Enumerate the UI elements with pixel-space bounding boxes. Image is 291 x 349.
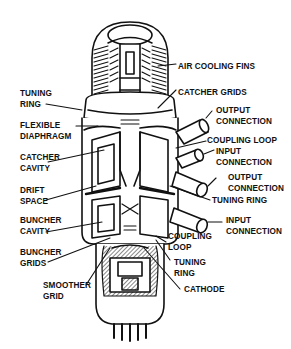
label-catcher-cavity: CATCHER CAVITY bbox=[20, 152, 60, 174]
label-output-connection-mid: OUTPUT CONNECTION bbox=[228, 172, 284, 194]
label-air-cooling-fins: AIR COOLING FINS bbox=[178, 61, 255, 72]
label-input-connection-mid: INPUT CONNECTION bbox=[216, 146, 272, 168]
label-tuning-ring-top: TUNING RING bbox=[20, 88, 52, 110]
label-buncher-grids: BUNCHER GRIDS bbox=[20, 247, 62, 269]
label-buncher-cavity: BUNCHER CAVITY bbox=[20, 215, 62, 237]
label-drift-space: DRIFT SPACE bbox=[20, 185, 48, 207]
label-tuning-ring-mid: TUNING RING bbox=[212, 195, 267, 206]
klystron-diagram: AIR COOLING FINS TUNING RING CATCHER GRI… bbox=[0, 0, 291, 349]
label-coupling-loop-bottom: COUPLING LOOP bbox=[168, 231, 212, 253]
label-output-connection-top: OUTPUT CONNECTION bbox=[216, 105, 272, 127]
base-pins bbox=[114, 324, 146, 341]
cavity-body bbox=[82, 118, 178, 244]
tuning-ring-collar bbox=[84, 92, 176, 122]
label-input-connection-bottom: INPUT CONNECTION bbox=[226, 215, 282, 237]
label-catcher-grids: CATCHER GRIDS bbox=[178, 87, 247, 98]
label-cathode: CATHODE bbox=[184, 284, 225, 295]
label-coupling-loop-top: COUPLING LOOP bbox=[207, 135, 277, 146]
label-tuning-ring-bottom: TUNING RING bbox=[174, 257, 206, 279]
label-smoother-grid: SMOOTHER GRID bbox=[43, 280, 91, 302]
label-flexible-diaphragm: FLEXIBLE DIAPHRAGM bbox=[20, 120, 71, 142]
glass-envelope bbox=[96, 244, 164, 324]
